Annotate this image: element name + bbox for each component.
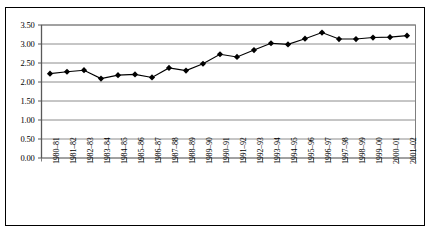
y-tick-label: 2.00 <box>9 78 35 87</box>
x-tick-label: 1990–91 <box>223 137 231 164</box>
x-tick-label: 1994–95 <box>291 137 299 164</box>
y-tick-label: 1.50 <box>9 97 35 106</box>
x-tick-label: 1989–90 <box>206 137 214 164</box>
x-tick-label: 1993–94 <box>274 137 282 164</box>
x-tick-label: 1998–99 <box>359 137 367 164</box>
y-tick-label: 3.50 <box>9 21 35 30</box>
x-tick-label: 2000–01 <box>393 137 401 164</box>
chart-container: 3.503.002.502.001.501.000.500.00 1980–81… <box>0 0 435 235</box>
x-tick-label: 1985–86 <box>138 137 146 164</box>
x-tick-label: 1995–96 <box>308 137 316 164</box>
y-tick-label: 2.50 <box>9 59 35 68</box>
x-tick-label: 2001–02 <box>410 137 418 164</box>
x-tick-label: 1983–84 <box>104 137 112 164</box>
y-tick-label: 1.00 <box>9 116 35 125</box>
y-tick-label: 0.50 <box>9 135 35 144</box>
y-tick-label: 3.00 <box>9 40 35 49</box>
x-tick-label: 1991–92 <box>240 137 248 164</box>
x-tick-label: 1984–85 <box>121 137 129 164</box>
x-tick-label: 1992–93 <box>257 137 265 164</box>
x-tick-label: 1997–98 <box>342 137 350 164</box>
x-tick-label: 1981–82 <box>70 137 78 164</box>
x-tick-label: 1996–97 <box>325 137 333 164</box>
x-tick-label: 1980–81 <box>53 137 61 164</box>
line-chart-plot <box>0 0 435 235</box>
x-tick-label: 1987–88 <box>172 137 180 164</box>
x-tick-label: 1982–83 <box>87 137 95 164</box>
x-tick-label: 1999–00 <box>376 137 384 164</box>
x-tick-label: 1988–89 <box>189 137 197 164</box>
x-tick-label: 1986–87 <box>155 137 163 164</box>
y-tick-label: 0.00 <box>9 154 35 163</box>
